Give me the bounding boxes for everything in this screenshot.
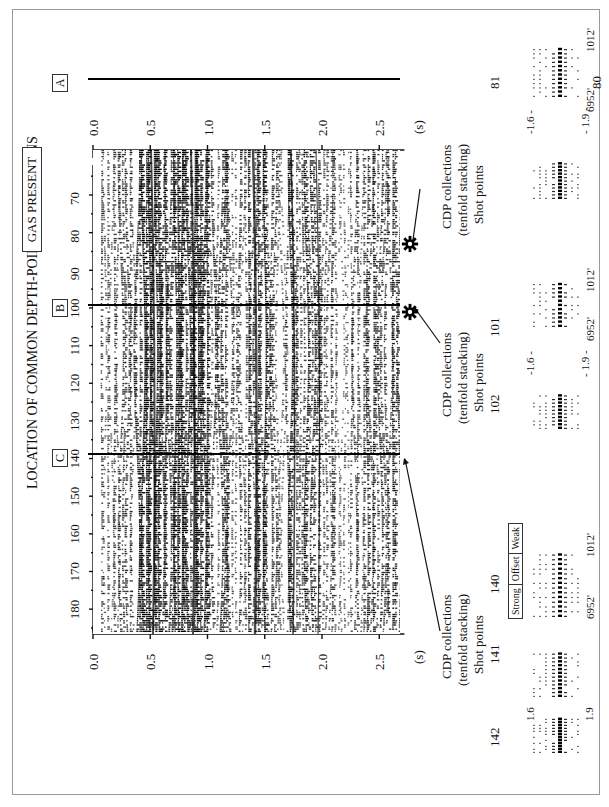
gather-panel (527, 44, 582, 99)
legend-offset: Offset (509, 553, 522, 585)
shot-point-81: 81 (488, 76, 501, 89)
gather-panel (527, 649, 582, 699)
leader-line-3 (405, 459, 440, 631)
callout-2-line2: (tenfold stacking) (456, 332, 469, 424)
shot-point-140: 140 (488, 575, 501, 595)
legend-strong: Strong (509, 584, 522, 618)
amplitude-legend: Strong Offset Weak (508, 523, 523, 619)
gather-2-near-offset: 6952' (585, 317, 596, 341)
callout-3-line2: (tenfold stacking) (456, 594, 469, 686)
gather-panel (527, 715, 582, 755)
callout-2-line3: Shot points (472, 353, 485, 412)
shot-point-142: 142 (488, 728, 501, 748)
gather-1-near-offset: 6952' (585, 88, 596, 112)
callout-1-line1: CDP collections (440, 145, 453, 229)
gear-icon (401, 303, 419, 321)
gather-3-bottom-time: 1.9 (584, 707, 595, 721)
callout-1-line2: (tenfold stacking) (456, 144, 469, 236)
callout-1-line3: Shot points (472, 165, 485, 224)
gather-panel (527, 391, 582, 431)
gather-1-top-time: -1.6 - (525, 110, 536, 134)
callout-3-line1: CDP collections (440, 595, 453, 679)
shot-point-101: 101 (488, 318, 501, 338)
gather-2-top-time: -1.6 - (525, 351, 536, 375)
shot-point-102: 102 (488, 395, 501, 415)
gather-panel (527, 159, 582, 201)
gear-icon (401, 235, 419, 253)
rotated-page: LOCATION OF COMMON DEPTH-POINT COLLECTIO… (0, 0, 609, 807)
gather-3-near-offset: 6952' (585, 595, 596, 619)
shot-point-141: 141 (488, 645, 501, 665)
gather-2-bottom-time: - 1.9 - (580, 350, 591, 377)
callout-3-line3: Shot points (472, 615, 485, 674)
callout-2-line1: CDP collections (440, 333, 453, 417)
marker-lines (0, 0, 609, 807)
gather-1-far-offset: 1012' (585, 28, 596, 52)
legend-weak: Weak (509, 524, 522, 553)
gather-panel (527, 279, 582, 329)
gather-2-far-offset: 1012' (585, 268, 596, 292)
gather-3-far-offset: 1012' (585, 533, 596, 557)
gather-panel (527, 549, 582, 619)
gather-3-top-time: 1.6 (525, 707, 536, 721)
